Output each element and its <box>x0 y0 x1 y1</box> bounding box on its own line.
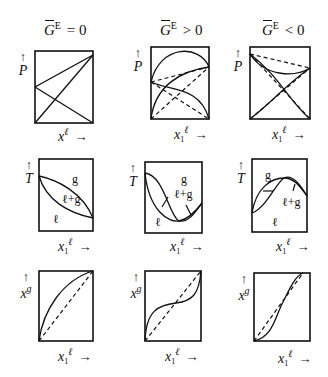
axis-symbol: T <box>25 171 33 186</box>
region-liquid: ℓ <box>53 212 59 227</box>
x-axis-label: x1ℓ→ <box>170 236 203 256</box>
arrow-right-icon: → <box>292 127 305 142</box>
axis-symbol: T <box>129 174 137 189</box>
arrow-right-icon: → <box>194 127 207 142</box>
arrow-up-icon: ↑ <box>236 272 252 285</box>
sup: ℓ <box>288 348 292 359</box>
p-axis-label: ↑P <box>231 46 245 75</box>
p-axis-label: ↑P <box>16 50 30 79</box>
axis-symbol: T <box>237 171 245 186</box>
sub: 1 <box>171 357 175 366</box>
xy-negative-panel <box>253 272 311 342</box>
sup: ℓ <box>175 346 179 357</box>
px-ideal-panel <box>34 50 94 124</box>
header-col-ideal: GE = 0 <box>44 20 86 39</box>
sup: ℓ <box>184 124 188 135</box>
xy-positive-panel <box>144 270 202 342</box>
sup: ℓ <box>282 124 286 135</box>
region-two-phase: ℓ+g <box>282 195 301 210</box>
sup: g <box>27 283 32 294</box>
region-gas: g <box>265 168 271 183</box>
sup: ℓ <box>64 126 68 137</box>
excess-gibbs-symbol: G <box>160 22 171 39</box>
p-axis-label: ↑P <box>131 46 145 75</box>
sub: 1 <box>176 247 180 256</box>
sub: 1 <box>64 247 68 256</box>
sub: 1 <box>64 357 68 366</box>
arrow-right-icon: → <box>78 239 91 254</box>
arrow-right-icon: → <box>78 349 91 364</box>
sub: 1 <box>282 247 286 256</box>
x-axis-label: x1ℓ→ <box>165 346 198 366</box>
relation: > 0 <box>183 22 203 38</box>
region-liquid: ℓ <box>272 215 278 230</box>
arrow-up-icon: ↑ <box>126 161 140 174</box>
excess-gibbs-symbol: G <box>262 22 273 39</box>
px-negative-panel <box>249 46 311 120</box>
arrow-up-icon: ↑ <box>22 158 36 171</box>
y-axis-label: ↑xg <box>18 270 34 302</box>
arrow-right-icon: → <box>190 239 203 254</box>
header-col-negative: GE < 0 <box>262 20 304 39</box>
superscript: E <box>273 20 279 31</box>
px-positive-panel <box>150 46 210 120</box>
sub: 1 <box>180 135 184 144</box>
arrow-up-icon: ↑ <box>128 270 144 283</box>
region-gas: g <box>72 172 78 187</box>
sub: 1 <box>278 135 282 144</box>
x-axis-label: x1ℓ→ <box>58 236 91 256</box>
x-axis-label: x1ℓ→ <box>174 124 207 144</box>
axis-symbol: P <box>134 59 143 74</box>
arrow-up-icon: ↑ <box>231 46 245 59</box>
arrow-up-icon: ↑ <box>234 158 248 171</box>
sup: ℓ <box>180 236 184 247</box>
sup: g <box>245 285 250 296</box>
sub: 1 <box>284 359 288 368</box>
arrow-right-icon: → <box>74 129 87 144</box>
y-axis-label: ↑xg <box>236 272 252 304</box>
y-axis-label: ↑xg <box>128 270 144 302</box>
region-two-phase: ℓ+g <box>174 187 193 202</box>
axis-symbol: P <box>19 63 28 78</box>
superscript: E <box>55 20 61 31</box>
relation: = 0 <box>67 22 87 38</box>
x-axis-label: x1ℓ→ <box>278 348 311 368</box>
arrow-up-icon: ↑ <box>16 50 30 63</box>
arrow-up-icon: ↑ <box>131 46 145 59</box>
region-liquid: ℓ <box>155 215 161 230</box>
excess-gibbs-symbol: G <box>44 22 55 39</box>
arrow-up-icon: ↑ <box>18 270 34 283</box>
superscript: E <box>171 20 177 31</box>
arrow-right-icon: → <box>296 239 309 254</box>
x-axis-label: xℓ→ <box>58 126 87 145</box>
x-axis-label: x1ℓ→ <box>272 124 305 144</box>
region-gas: g <box>181 172 187 187</box>
sup: ℓ <box>68 236 72 247</box>
arrow-right-icon: → <box>185 349 198 364</box>
xy-ideal-panel <box>38 270 94 342</box>
sup: ℓ <box>286 236 290 247</box>
t-axis-label: ↑T <box>22 158 36 187</box>
region-two-phase: ℓ+g <box>62 192 81 207</box>
t-axis-label: ↑T <box>234 158 248 187</box>
header-col-positive: GE > 0 <box>160 20 202 39</box>
x-axis-label: x1ℓ→ <box>276 236 309 256</box>
axis-symbol: P <box>234 59 243 74</box>
sup: ℓ <box>68 346 72 357</box>
x-axis-label: x1ℓ→ <box>58 346 91 366</box>
relation: < 0 <box>285 22 305 38</box>
arrow-right-icon: → <box>298 351 311 366</box>
sup: g <box>137 283 142 294</box>
t-axis-label: ↑T <box>126 161 140 190</box>
